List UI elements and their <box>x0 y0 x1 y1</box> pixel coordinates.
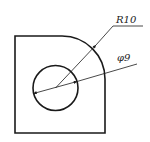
radius-label: R10 <box>115 14 137 25</box>
radius-leader-extension <box>96 26 113 45</box>
part-outline <box>15 36 105 133</box>
drawing-canvas: R10 φ9 <box>0 0 150 142</box>
diameter-label: φ9 <box>117 52 131 63</box>
diameter-leader-extension <box>77 64 137 82</box>
diameter-dimension-line <box>34 82 78 94</box>
